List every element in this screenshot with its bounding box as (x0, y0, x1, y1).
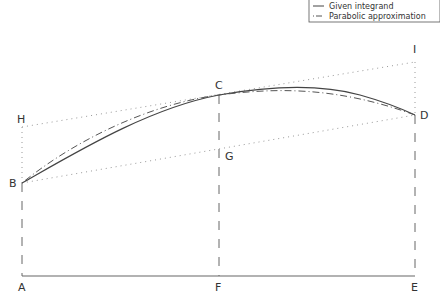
point-label-H: H (17, 113, 25, 126)
point-label-D: D (420, 109, 428, 122)
point-label-G: G (225, 150, 234, 163)
point-label-C: C (215, 79, 223, 92)
point-label-I: I (413, 43, 416, 56)
point-label-B: B (9, 177, 17, 190)
point-label-F: F (215, 281, 221, 294)
legend-label-given: Given integrand (329, 2, 393, 11)
simpson-rule-diagram: Given integrand Parabolic approximation … (0, 0, 440, 300)
legend-label-parabolic: Parabolic approximation (329, 12, 426, 21)
point-label-A: A (18, 281, 26, 294)
legend: Given integrand Parabolic approximation (309, 0, 440, 22)
point-label-E: E (411, 281, 418, 294)
